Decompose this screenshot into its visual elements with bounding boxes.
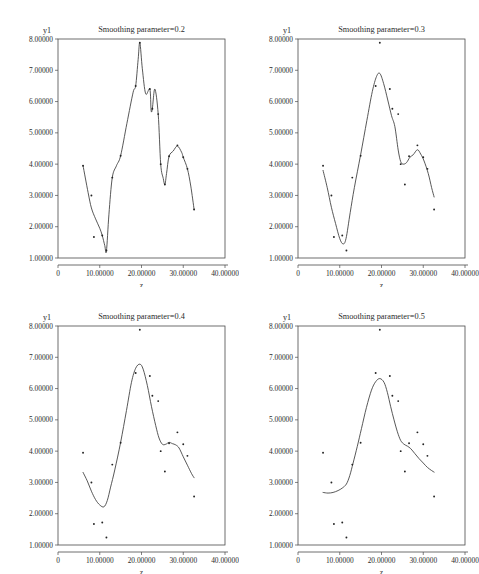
data-point [330,194,332,196]
data-point [375,85,377,87]
y-tick-label: 4.00000 [29,447,53,456]
y-tick-label: 4.00000 [269,160,293,169]
y-tick-label: 6.00000 [29,97,53,106]
data-point [101,522,103,524]
data-point [322,452,324,454]
data-point [345,537,347,539]
data-point [333,236,335,238]
x-tick-label: 0 [56,556,60,565]
data-point [151,108,153,110]
data-point [341,235,343,237]
data-point [186,168,188,170]
data-point [416,431,418,433]
x-tick-label: 30.00000 [409,269,437,278]
data-point [160,163,162,165]
x-tick-label: 0 [296,556,300,565]
chart-panel-2: Smoothing parameter=0.4y11.000002.000003… [0,287,239,574]
data-point [408,442,410,444]
data-point [168,442,170,444]
data-point [157,113,159,115]
y-tick-label: 2.00000 [269,222,293,231]
x-tick-label: 20.00000 [368,269,396,278]
data-point [389,88,391,90]
data-point [157,400,159,402]
data-point [433,496,435,498]
data-point [416,144,418,146]
y-tick-label: 5.00000 [29,415,53,424]
y-tick-label: 7.00000 [29,353,53,362]
y-tick-label: 8.00000 [269,35,293,44]
data-point [397,113,399,115]
data-point [149,375,151,377]
y-tick-label: 1.00000 [29,254,53,263]
x-tick-label: 30.00000 [169,269,197,278]
plot-frame [298,326,465,545]
data-point [176,144,178,146]
data-point [400,163,402,165]
data-point [333,523,335,525]
chart-panel-3: Smoothing parameter=0.5y11.000002.000003… [240,287,479,574]
y-tick-label: 5.00000 [29,128,53,137]
y-tick-label: 5.00000 [269,128,293,137]
x-tick-label: 30.00000 [169,556,197,565]
y-tick-label: 8.00000 [29,35,53,44]
chart-panel-0: Smoothing parameter=0.2y11.000002.000003… [0,0,239,287]
data-point [345,250,347,252]
data-point [397,400,399,402]
x-tick-label: 10.00000 [326,556,354,565]
data-point [351,177,353,179]
data-point [111,464,113,466]
data-point [422,156,424,158]
data-point [408,155,410,157]
data-point [322,165,324,167]
data-point [164,184,166,186]
chart-panel-1: Smoothing parameter=0.3y11.000002.000003… [240,0,479,287]
panel-title: Smoothing parameter=0.4 [98,312,186,321]
y-tick-label: 4.00000 [269,447,293,456]
y-tick-label: 2.00000 [29,509,53,518]
data-point [375,372,377,374]
x-tick-label: 0 [296,269,300,278]
data-point [389,375,391,377]
x-tick-label: 40.00000 [451,269,479,278]
data-point [135,85,137,87]
data-point [391,108,393,110]
data-point [120,155,122,157]
y-tick-label: 3.00000 [269,478,293,487]
x-axis-label: z [140,568,144,574]
smoothing-curve [323,379,434,494]
y-tick-label: 3.00000 [269,191,293,200]
data-point [186,455,188,457]
x-tick-label: 30.00000 [409,556,437,565]
panel-title: Smoothing parameter=0.5 [338,312,425,321]
x-tick-label: 20.00000 [368,556,396,565]
data-point [400,450,402,452]
data-point [82,165,84,167]
data-point [139,329,141,331]
data-point [182,156,184,158]
data-point [426,168,428,170]
data-point [193,209,195,211]
data-point [379,329,381,331]
data-point [111,177,113,179]
y-tick-label: 8.00000 [269,322,293,331]
data-point [105,537,107,539]
x-tick-label: 10.00000 [86,269,114,278]
data-point [404,471,406,473]
y-tick-label: 1.00000 [269,254,293,263]
data-point [139,42,141,44]
data-point [82,452,84,454]
data-point [151,395,153,397]
y-tick-label: 2.00000 [29,222,53,231]
data-point [149,88,151,90]
data-point [93,523,95,525]
smoothing-curve [83,364,194,507]
data-point [105,250,107,252]
panel-title: Smoothing parameter=0.3 [338,25,425,34]
data-point [360,442,362,444]
data-point [391,395,393,397]
data-point [433,209,435,211]
data-point [168,155,170,157]
y-tick-label: 4.00000 [29,160,53,169]
data-point [135,372,137,374]
